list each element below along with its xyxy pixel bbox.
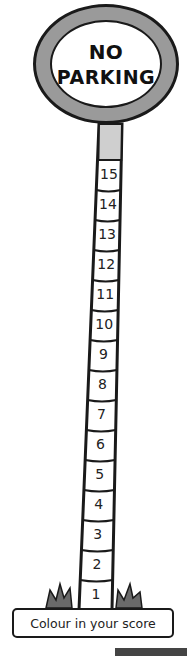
score-segment-14[interactable]: 14 xyxy=(96,196,120,212)
score-banner: Colour in your score xyxy=(12,608,174,638)
score-segment-15[interactable]: 15 xyxy=(97,166,121,182)
score-segment-10[interactable]: 10 xyxy=(92,316,116,332)
corner-fragment xyxy=(115,648,187,656)
no-parking-sign: NO PARKING xyxy=(33,4,179,124)
score-segment-9[interactable]: 9 xyxy=(91,346,115,362)
score-segment-7[interactable]: 7 xyxy=(90,406,114,422)
score-segment-4[interactable]: 4 xyxy=(87,496,111,512)
grass-left-icon xyxy=(46,584,72,608)
score-segment-5[interactable]: 5 xyxy=(88,466,112,482)
sign-line-2: PARKING xyxy=(52,66,160,88)
score-segment-12[interactable]: 12 xyxy=(94,256,118,272)
score-segment-1[interactable]: 1 xyxy=(84,586,108,602)
score-segment-6[interactable]: 6 xyxy=(89,436,113,452)
score-segment-3[interactable]: 3 xyxy=(86,526,110,542)
sign-face: NO PARKING xyxy=(50,20,162,108)
grass-right-icon xyxy=(116,584,142,608)
banner-label: Colour in your score xyxy=(30,616,156,631)
score-segment-11[interactable]: 11 xyxy=(93,286,117,302)
score-segment-8[interactable]: 8 xyxy=(90,376,114,392)
sign-line-1: NO xyxy=(52,40,160,64)
score-segment-2[interactable]: 2 xyxy=(85,556,109,572)
score-segment-13[interactable]: 13 xyxy=(95,226,119,242)
